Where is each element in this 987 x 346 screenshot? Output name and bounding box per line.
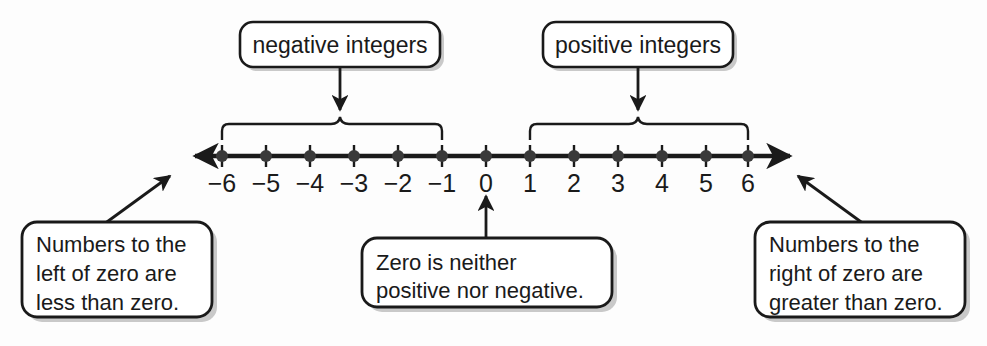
tick-group-n5: −5	[252, 145, 281, 197]
tick-label-n1: −1	[428, 169, 457, 197]
tick-dot	[524, 150, 536, 162]
left-callout-line-1: Numbers to the	[36, 232, 186, 257]
tick-group-p3: 3	[611, 145, 625, 197]
tick-label-p4: 4	[655, 169, 669, 197]
right-callout-line-1: Numbers to the	[769, 232, 919, 257]
tick-group-n6: −6	[208, 145, 237, 197]
tick-label-p3: 3	[611, 169, 625, 197]
tick-group-n3: −3	[340, 145, 369, 197]
right-callout-box: Numbers to the right of zero are greater…	[755, 222, 970, 322]
tick-dot	[480, 150, 492, 162]
tick-label-p6: 6	[741, 169, 755, 197]
tick-group-p2: 2	[567, 145, 581, 197]
negative-integers-brace	[222, 117, 442, 140]
tick-group-n4: −4	[296, 145, 325, 197]
center-callout-box: Zero is neither positive nor negative.	[362, 238, 617, 312]
tick-group-p6: 6	[741, 145, 755, 197]
tick-group-n2: −2	[384, 145, 413, 197]
tick-dot	[436, 150, 448, 162]
tick-group-n1: −1	[428, 145, 457, 197]
number-line-figure: negative integers positive integers −6 −…	[0, 0, 987, 346]
right-callout-line-3: greater than zero.	[769, 290, 943, 315]
tick-dot	[304, 150, 316, 162]
left-callout-box: Numbers to the left of zero are less tha…	[22, 222, 217, 322]
tick-label-n6: −6	[208, 169, 237, 197]
tick-label-p5: 5	[699, 169, 713, 197]
center-callout-line-2: positive nor negative.	[376, 278, 584, 303]
tick-dot	[700, 150, 712, 162]
tick-group-zero: 0	[479, 145, 493, 197]
left-callout-line-3: less than zero.	[36, 290, 179, 315]
center-callout-line-1: Zero is neither	[376, 250, 517, 275]
tick-label-p2: 2	[567, 169, 581, 197]
positive-integers-brace	[530, 117, 748, 140]
tick-group-p4: 4	[655, 145, 669, 197]
left-callout-arrow	[100, 176, 170, 227]
tick-dot	[392, 150, 404, 162]
positive-integers-label-box: positive integers	[543, 22, 737, 71]
tick-label-n3: −3	[340, 169, 369, 197]
tick-dot	[656, 150, 668, 162]
tick-label-p1: 1	[523, 169, 537, 197]
left-callout-line-2: left of zero are	[36, 261, 177, 286]
tick-label-zero: 0	[479, 169, 493, 197]
number-line-diagram: negative integers positive integers −6 −…	[0, 0, 987, 346]
tick-label-n2: −2	[384, 169, 413, 197]
tick-group-p5: 5	[699, 145, 713, 197]
tick-label-n5: −5	[252, 169, 281, 197]
tick-dot	[612, 150, 624, 162]
tick-dot	[348, 150, 360, 162]
tick-label-n4: −4	[296, 169, 325, 197]
negative-integers-label-text: negative integers	[252, 32, 427, 58]
tick-dot	[216, 150, 228, 162]
right-callout-arrow	[798, 176, 868, 227]
tick-dot	[568, 150, 580, 162]
tick-dot	[742, 150, 754, 162]
right-callout-line-2: right of zero are	[769, 261, 923, 286]
positive-integers-label-text: positive integers	[555, 32, 721, 58]
tick-group-p1: 1	[523, 145, 537, 197]
negative-integers-label-box: negative integers	[240, 22, 444, 71]
tick-dot	[260, 150, 272, 162]
